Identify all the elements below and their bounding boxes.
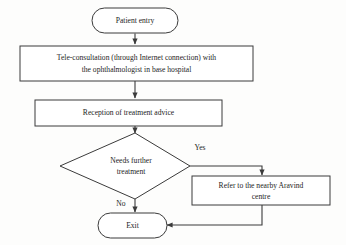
tele-consultation-label-line1: Tele-consultation (through Internet conn… <box>57 53 217 62</box>
node-patient-entry[interactable]: Patient entry <box>92 8 178 33</box>
tele-consultation-shape <box>20 46 253 81</box>
node-refer-aravind[interactable]: Refer to the nearby Aravind centre <box>192 176 330 205</box>
reception-advice-label: Reception of treatment advice <box>83 108 175 117</box>
decision-label-line2: treatment <box>117 167 147 176</box>
node-needs-further-treatment[interactable]: Needs further treatment <box>60 133 190 199</box>
edge-decision-yes-to-refer <box>190 166 262 175</box>
refer-aravind-label-line1: Refer to the nearby Aravind <box>219 181 304 190</box>
tele-consultation-label-line2: the ophthalmologist in base hospital <box>82 65 192 74</box>
flowchart-svg: Patient entry Tele-consultation (through… <box>0 0 346 245</box>
flowchart-canvas: Patient entry Tele-consultation (through… <box>0 0 346 245</box>
decision-label-line1: Needs further <box>110 156 152 165</box>
edge-refer-to-exit <box>167 205 262 225</box>
edge-label-no: No <box>116 199 125 208</box>
edge-label-yes: Yes <box>194 143 205 152</box>
node-tele-consultation[interactable]: Tele-consultation (through Internet conn… <box>20 46 253 81</box>
patient-entry-label: Patient entry <box>116 16 155 25</box>
refer-aravind-label-line2: centre <box>252 192 271 201</box>
node-reception-advice[interactable]: Reception of treatment advice <box>35 100 222 126</box>
exit-label: Exit <box>126 221 140 230</box>
node-exit[interactable]: Exit <box>98 213 167 238</box>
